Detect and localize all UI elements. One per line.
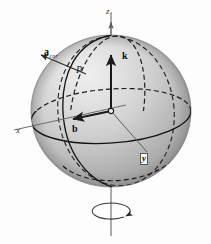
y-axis-label: y xyxy=(140,153,148,165)
figure-sphere-coriolis: z x y k b acor P xyxy=(0,0,211,244)
a-cor-vector-label: acor xyxy=(44,42,58,58)
a-cor-base-label: a xyxy=(44,46,49,57)
k-vector-label: k xyxy=(122,51,128,61)
origin-marker xyxy=(108,108,113,113)
x-axis-label: x xyxy=(16,126,20,135)
z-axis-label: z xyxy=(106,7,110,16)
point-p-label: P xyxy=(76,65,82,75)
b-vector-label: b xyxy=(72,124,78,134)
a-cor-subscript-label: cor xyxy=(50,53,59,59)
sphere-diagram-canvas xyxy=(0,0,211,244)
